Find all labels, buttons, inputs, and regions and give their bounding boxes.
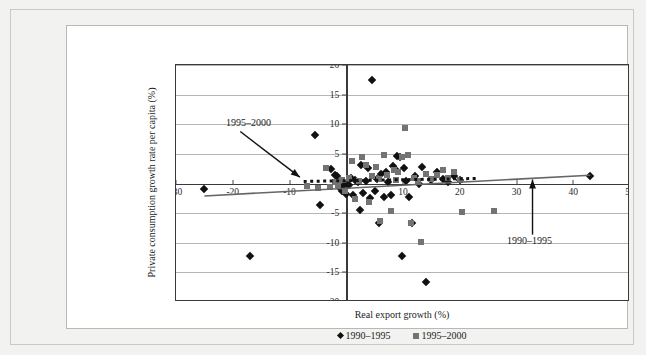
legend-item-1990-1995: 1990–1995 (338, 329, 391, 341)
annotation-label-1990-1995: 1990–1995 (507, 235, 552, 246)
plot-area: -20-15-10-505101520 -30-20-1001020304050 (175, 64, 629, 301)
trendline-1995-2000 (304, 178, 477, 181)
figure-panel: Private consumption growth rate per capi… (66, 25, 628, 329)
annotation-label-1995-2000: 1995–2000 (226, 117, 271, 128)
trendline-1990-1995 (204, 175, 590, 196)
chart-legend: 1990–19951995–2000 (175, 329, 629, 341)
diamond-marker-icon (336, 332, 343, 339)
plot-inner: -20-15-10-505101520 -30-20-1001020304050 (176, 65, 628, 300)
square-marker-icon (413, 333, 419, 339)
trendlines-layer (176, 65, 628, 300)
y-axis-label: Private consumption growth rate per capi… (145, 64, 159, 301)
legend-item-1995-2000: 1995–2000 (413, 329, 467, 341)
legend-label: 1995–2000 (422, 330, 467, 341)
legend-label: 1990–1995 (346, 330, 391, 341)
x-axis-label: Real export growth (%) (175, 309, 629, 320)
figure-page: Private consumption growth rate per capi… (0, 0, 646, 355)
